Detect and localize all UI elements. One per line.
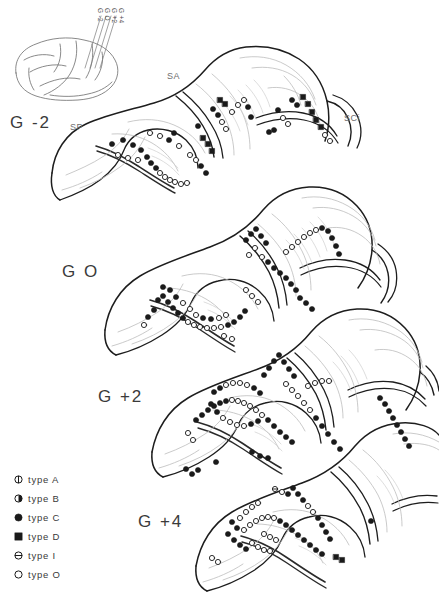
cell-marker-type-c (173, 294, 178, 299)
cell-marker-type-d (339, 557, 344, 562)
legend-item-type-o: type O (8, 565, 118, 584)
cell-marker-type-o (243, 287, 248, 292)
cell-marker-type-o (289, 387, 294, 392)
cell-marker-type-c (223, 398, 228, 403)
cell-marker-type-d (309, 109, 314, 114)
cell-marker-type-c (257, 453, 262, 458)
cell-marker-type-c (231, 319, 236, 324)
cell-marker-type-c (382, 401, 387, 406)
cell-marker-type-c (211, 389, 216, 394)
cell-marker-type-c (290, 485, 295, 490)
cell-marker-type-o (267, 548, 272, 553)
cell-marker-type-c (245, 104, 250, 109)
cell-marker-type-o (157, 133, 162, 138)
cell-marker-type-d (217, 97, 222, 102)
cell-marker-type-c (243, 546, 248, 551)
inset-level-g-plus-4: G +4 (118, 8, 125, 23)
cell-marker-type-c (286, 366, 291, 371)
cell-marker-type-c (195, 467, 200, 472)
legend-item-type-i: type I (8, 546, 118, 565)
cell-marker-type-c (167, 287, 172, 292)
cell-marker-type-c (329, 235, 334, 240)
cell-marker-type-c (266, 365, 271, 370)
cell-marker-type-c (153, 165, 158, 170)
cell-marker-type-c (390, 415, 395, 420)
cell-marker-type-c (217, 385, 222, 390)
cell-marker-type-c (285, 491, 290, 496)
cell-marker-type-c (288, 281, 293, 286)
cell-marker-type-c (271, 423, 276, 428)
legend-item-label: type A (28, 474, 59, 485)
cell-marker-type-o (261, 531, 266, 536)
cell-marker-type-c (277, 518, 282, 523)
figure-canvas: G -2 G O G +2 G +4 SP SA SCi G -2 G O G … (0, 0, 439, 600)
cell-marker-type-o (180, 300, 185, 305)
cell-marker-type-c (319, 423, 324, 428)
cell-marker-type-o (322, 132, 327, 137)
cell-marker-type-c (271, 127, 276, 132)
cell-marker-type-c (333, 243, 338, 248)
cell-marker-type-c (203, 170, 208, 175)
section-label-g-2: G -2 (10, 113, 51, 133)
cell-marker-type-o (162, 174, 167, 179)
cell-marker-type-d (209, 148, 214, 153)
section-label-g-plus-2: G +2 (98, 387, 143, 407)
cell-marker-type-c (283, 434, 288, 439)
cell-marker-type-c (183, 466, 188, 471)
cell-marker-type-c (200, 315, 205, 320)
cell-marker-type-c (208, 316, 213, 321)
cell-marker-type-o (327, 138, 332, 143)
cell-marker-type-c (214, 409, 219, 414)
cell-marker-type-c (263, 240, 268, 245)
cell-marker-type-o (247, 522, 252, 527)
cell-marker-type-o (259, 254, 264, 259)
cell-marker-type-o (178, 181, 183, 186)
cell-marker-type-o (244, 382, 249, 387)
legend-item-label: type B (28, 493, 60, 504)
cell-marker-type-c (231, 537, 236, 542)
cell-marker-type-c (377, 395, 382, 400)
cell-marker-type-c (109, 141, 114, 146)
cell-marker-type-c (293, 287, 298, 292)
cell-marker-type-c (205, 407, 210, 412)
cell-marker-type-c (398, 429, 403, 434)
cell-marker-type-c (160, 293, 165, 298)
cell-marker-type-o (295, 239, 300, 244)
cell-marker-type-c (195, 123, 200, 128)
cell-marker-type-o (215, 559, 220, 564)
cell-marker-type-o (176, 143, 181, 148)
cell-marker-type-o (218, 324, 223, 329)
cell-marker-type-o (255, 544, 260, 549)
cell-marker-type-o (221, 333, 226, 338)
structure-label-sci: SCi (344, 113, 360, 123)
cell-marker-type-c (301, 537, 306, 542)
cell-marker-type-c (275, 107, 280, 112)
cell-marker-type-o (267, 534, 272, 539)
cell-marker-type-c (257, 390, 262, 395)
cell-marker-type-c (386, 408, 391, 413)
cell-marker-type-o (283, 249, 288, 254)
cell-marker-type-c (315, 515, 320, 520)
cell-marker-type-o (230, 380, 235, 385)
cell-marker-type-c (217, 400, 222, 405)
cell-marker-type-c (266, 129, 271, 134)
cell-marker-type-c (243, 237, 248, 242)
cell-marker-type-o (234, 422, 239, 427)
cell-marker-type-c (313, 547, 318, 552)
circle-open-icon (8, 569, 28, 580)
cell-marker-type-o (115, 152, 120, 157)
cell-marker-type-c (208, 401, 213, 406)
cell-marker-type-c (265, 259, 270, 264)
cell-marker-type-c (193, 417, 198, 422)
cell-marker-type-c (237, 314, 242, 319)
legend-item-label: type I (28, 550, 56, 561)
cell-marker-type-o (193, 312, 198, 317)
cell-marker-type-o (227, 419, 232, 424)
cell-marker-type-c (258, 233, 263, 238)
circle-vertical-bar-icon (8, 474, 28, 485)
cell-marker-type-c (406, 443, 411, 448)
cell-marker-type-c (151, 307, 156, 312)
cell-marker-type-c (180, 315, 185, 320)
cell-marker-type-c (295, 532, 300, 537)
cell-marker-type-o (255, 500, 260, 505)
